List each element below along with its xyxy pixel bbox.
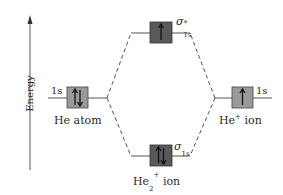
correlation-lines [107, 33, 215, 156]
he-ion-label: He+ ion [219, 115, 262, 126]
diagram-graphics [0, 0, 283, 195]
bonding-orbital-label: σ1s [174, 141, 190, 152]
energy-axis-label: Energy [24, 69, 35, 119]
antibonding-orbital-label: σ*1s [176, 16, 193, 27]
molecule-label: He2+ ion [133, 176, 180, 187]
he-ion-orbital-label: 1s [256, 86, 268, 96]
electron-arrows [73, 24, 246, 164]
mo-diagram: Energy 1s He atom 1s He+ ion σ*1s σ1s He… [0, 0, 283, 195]
he-atom-label: He atom [54, 115, 102, 126]
he-atom-orbital-label: 1s [51, 86, 63, 96]
